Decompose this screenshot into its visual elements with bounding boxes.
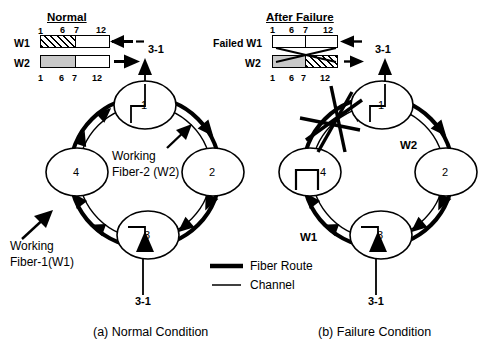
legend-channel-label: Channel	[250, 279, 295, 291]
figure-fiber-ring-protection: Normal 1 6 7 12 W1 W2 1 6 7 12 3-1	[0, 0, 486, 350]
legend-swatches	[0, 0, 486, 350]
legend-fiber-route-label: Fiber Route	[250, 260, 313, 272]
